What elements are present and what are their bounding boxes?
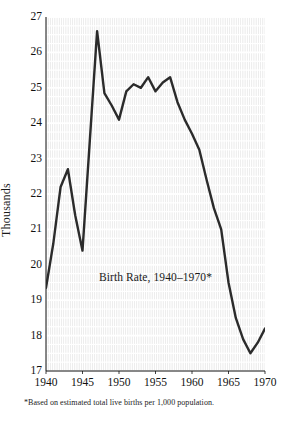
y-tick-label: 26 [16,46,42,58]
x-tick-label: 1960 [172,376,212,388]
y-axis-title: Thousands [0,150,14,270]
y-tick-label: 25 [16,82,42,94]
chart-title: Birth Rate, 1940–1970* [99,271,212,283]
x-tick-label: 1950 [99,376,139,388]
y-tick-label: 20 [16,259,42,271]
y-tick-label: 23 [16,153,42,165]
y-tick-label: 21 [16,223,42,235]
grid [45,16,265,372]
x-tick-label: 1965 [209,376,249,388]
x-tick-label: 1940 [26,376,66,388]
plot-area [0,0,281,421]
y-tick-label: 24 [16,117,42,129]
x-tick-label: 1955 [136,376,176,388]
x-tick-label: 1970 [245,376,281,388]
x-tick-label: 1945 [63,376,103,388]
chart-footnote: *Based on estimated total live births pe… [24,398,214,407]
y-tick-label: 17 [16,365,42,377]
y-tick-label: 19 [16,294,42,306]
y-tick-label: 18 [16,330,42,342]
y-axis-tick-labels: 1718192021222324252627 [14,0,42,421]
y-tick-label: 27 [16,11,42,23]
chart-figure: Thousands 1718192021222324252627 1940194… [0,0,281,421]
y-tick-label: 22 [16,188,42,200]
